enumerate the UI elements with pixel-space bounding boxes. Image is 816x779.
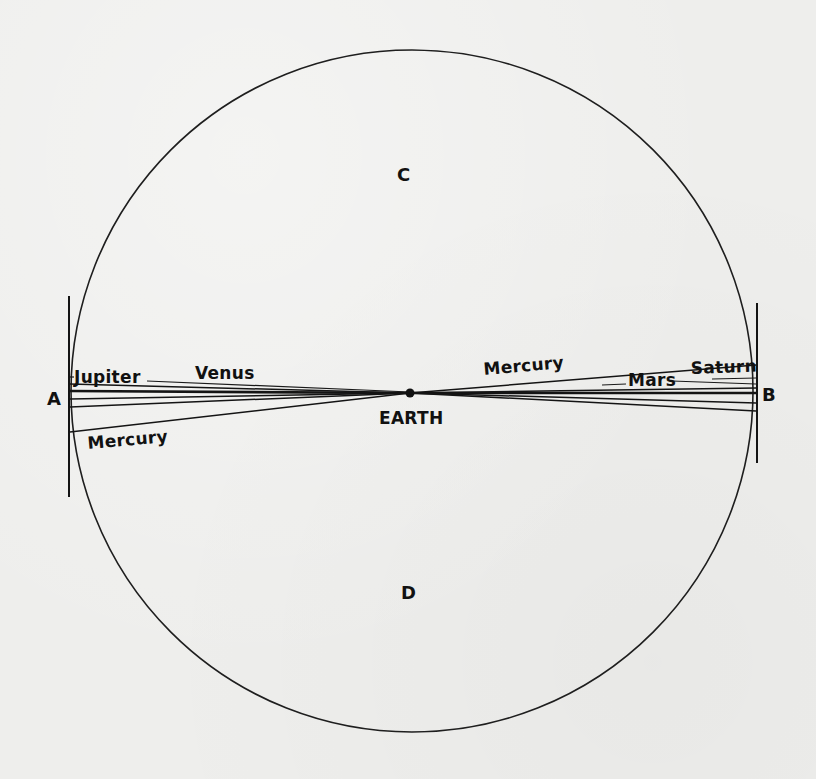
leader-line-saturn (712, 378, 756, 379)
planet-label-jupiter: Jupiter (73, 367, 141, 387)
point-label-a: A (47, 388, 61, 409)
planet-label-mars: Mars (628, 370, 676, 390)
planetary-sightline-diagram: JupiterVenusMercuryMercuryMarsSaturn ABC… (0, 0, 816, 779)
planet-label-mercury-left: Mercury (87, 426, 169, 453)
sight-line-a-3 (70, 393, 410, 407)
leader-line-mars (602, 384, 626, 385)
point-label-c: C (397, 164, 411, 185)
leader-line-mars (672, 381, 756, 384)
earth-label: EARTH (379, 408, 443, 428)
planet-label-saturn: Saturn (690, 356, 757, 378)
planet-label-mercury-right: Mercury (483, 352, 565, 379)
planet-label-venus: Venus (195, 363, 255, 383)
earth-dot (406, 389, 415, 398)
point-label-d: D (401, 582, 416, 603)
point-label-b: B (762, 384, 776, 405)
